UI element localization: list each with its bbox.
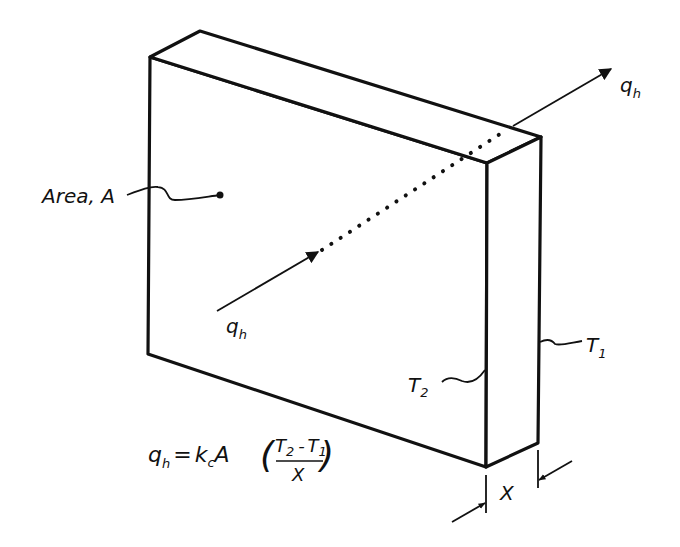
heat-out-label: qh bbox=[620, 73, 641, 101]
equation-paren-close: ) bbox=[317, 434, 334, 475]
heat-out-arrow bbox=[513, 69, 611, 126]
fourier-law-equation: qh=kcA ( T2-T1 X ) bbox=[148, 434, 334, 485]
dim-arrow-left bbox=[452, 503, 485, 522]
svg-text:T2-T1: T2-T1 bbox=[275, 435, 327, 459]
slab bbox=[148, 31, 541, 467]
area-label: Area, A bbox=[40, 184, 115, 208]
t1-label: T1 bbox=[586, 333, 607, 361]
svg-text:qh=kcA: qh=kcA bbox=[148, 442, 230, 471]
equation-paren-open: ( bbox=[260, 434, 276, 475]
slab-side-face bbox=[486, 137, 541, 467]
heat-conduction-diagram: qh qh Area, A T2 T1 X qh=kcA ( T2-T1 X bbox=[0, 0, 680, 547]
area-point-dot bbox=[217, 192, 224, 199]
svg-text:X: X bbox=[291, 464, 305, 485]
dim-arrow-right bbox=[539, 461, 572, 480]
thickness-label: X bbox=[499, 481, 515, 505]
t1-leader-line bbox=[540, 340, 582, 345]
